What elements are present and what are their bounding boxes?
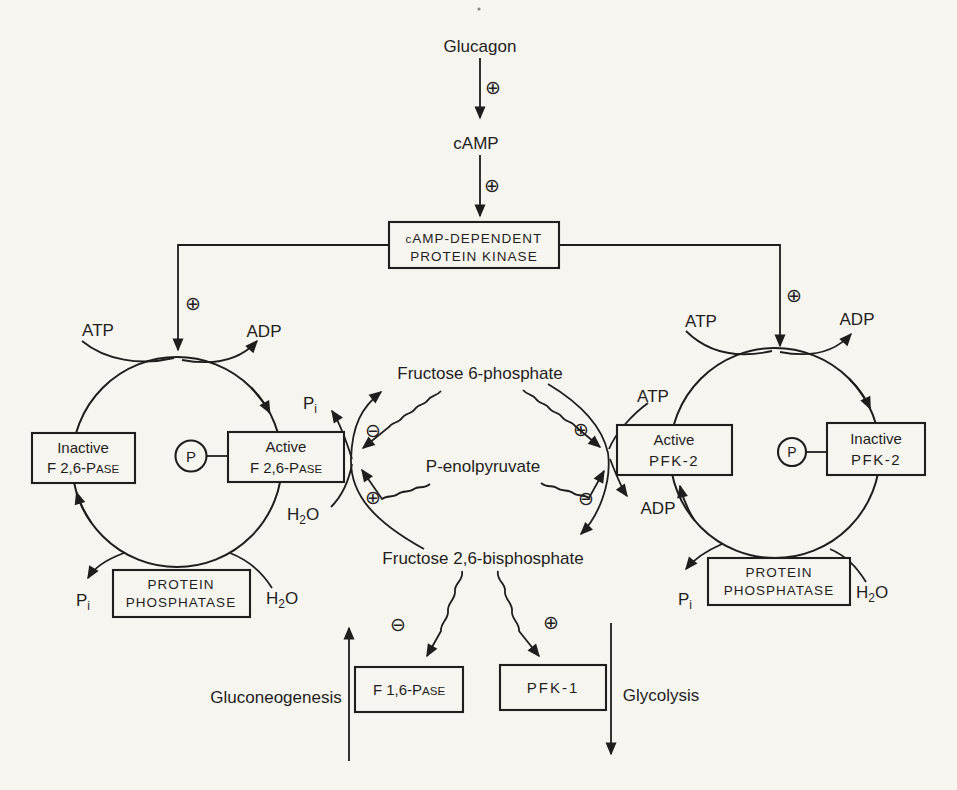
pfk2-atp-label: ATP [637,387,669,406]
plus-circle-icon-f26bp-pfk1: ⊕ [543,611,559,633]
inactive-f26pase-line1: Inactive [57,439,109,456]
left-phospho-label: P [186,448,196,465]
minus-circle-icon-f6p-f26pase: ⊖ [365,419,381,441]
camp-label: cAMP [453,134,498,153]
active-pfk2-line2: PFK-2 [649,452,699,469]
p-enolpyruvate-label: P-enolpyruvate [426,457,540,476]
fructose-26-bisphosphate-label: Fructose 2,6-bisphosphate [382,549,583,568]
fructose-6-phosphate-label: Fructose 6-phosphate [397,364,562,383]
left-phosphatase-line2: PHOSPHATASE [126,595,236,610]
inactive-pfk2-line2: PFK-2 [851,451,901,468]
glycolysis-label: Glycolysis [623,686,700,705]
active-pfk2-line1: Active [654,431,695,448]
inactive-pfk2-line1: Inactive [850,430,902,447]
plus-circle-icon-camp: ⊕ [484,174,500,196]
kinase-line2: PROTEIN KINASE [410,249,537,264]
f26bp-regulation-diagram: P P Glucagon cAMP Fructose 6-phosphate P… [0,0,957,790]
right-kinase-adp-label: ADP [840,310,875,329]
left-phosphatase-line1: PROTEIN [147,577,214,592]
left-kinase-atp-label: ATP [82,321,114,340]
glucagon-label: Glucagon [444,37,517,56]
pfk2-adp-label: ADP [641,499,676,518]
paper-background [0,0,957,790]
plus-circle-icon-f6p-pfk2: ⊕ [573,418,589,440]
plus-circle-icon-right-kinase: ⊕ [786,284,802,306]
right-phosphatase-line1: PROTEIN [745,565,812,580]
minus-circle-icon-pep-pfk2: ⊖ [578,487,594,509]
pfk1-label: PFK-1 [527,679,580,696]
diagram-page: P P Glucagon cAMP Fructose 6-phosphate P… [0,0,957,790]
right-phosphatase-line2: PHOSPHATASE [724,583,834,598]
plus-circle-icon-left-kinase: ⊕ [185,292,201,314]
active-f26pase-line1: Active [266,438,307,455]
scan-speck [477,7,480,10]
kinase-line1: cAMP-DEPENDENT [406,231,543,246]
left-kinase-adp-label: ADP [247,322,282,341]
gluconeogenesis-label: Gluconeogenesis [210,688,341,707]
right-phospho-label: P [787,444,796,460]
right-kinase-atp-label: ATP [685,312,717,331]
minus-circle-icon-f26bp-f16pase: ⊖ [390,613,406,635]
plus-circle-icon-glucagon: ⊕ [485,76,501,98]
plus-circle-icon-pep-f26pase: ⊕ [365,486,381,508]
